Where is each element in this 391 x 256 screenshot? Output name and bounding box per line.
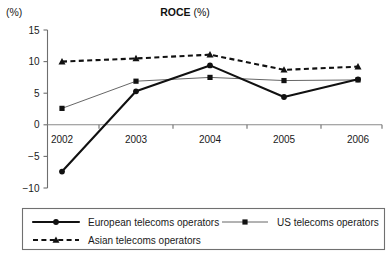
y-axis-unit-label: (%) [6,6,22,18]
marker-circle [133,88,139,94]
marker-circle [59,169,65,175]
chart-legend: European telecoms operatorsUS telecoms o… [23,209,385,250]
x-tick-label: 2003 [125,134,148,145]
y-tick-label: −5 [28,151,40,162]
x-tick-label: 2006 [347,134,370,145]
y-tick-label: 10 [28,56,40,67]
series-triangle [58,51,361,73]
y-tick-label: 0 [34,119,40,130]
marker-circle [53,219,59,225]
series-line [62,77,358,108]
marker-circle [355,76,361,82]
y-tick-label: 15 [28,25,40,36]
legend-box [23,209,385,250]
chart-title: ROCE (%) [160,6,210,18]
roce-line-chart: (%) ROCE (%) −10−5051015 200220032004200… [0,0,391,256]
y-tick-label: 5 [34,88,40,99]
marker-square [242,219,247,224]
series-plot-area [58,51,361,174]
chart-canvas: (%) ROCE (%) −10−5051015 200220032004200… [0,0,391,256]
y-axis: −10−5051015 [23,25,48,194]
marker-square [281,78,286,83]
legend-item-label: US telecoms operators [277,217,379,228]
marker-square [59,106,64,111]
x-tick-label: 2004 [199,134,222,145]
x-axis: 20022003200420052006 [48,125,383,145]
series-square [59,75,360,111]
legend-item-label: European telecoms operators [88,217,219,228]
marker-circle [281,94,287,100]
marker-square [207,75,212,80]
marker-circle [207,62,213,68]
marker-square [133,79,138,84]
chart-title-unit: (%) [191,6,210,18]
x-tick-label: 2002 [51,134,74,145]
series-line [62,65,358,171]
chart-title-main: ROCE [160,6,190,18]
legend-item-label: Asian telecoms operators [88,235,201,246]
x-tick-label: 2005 [273,134,296,145]
y-tick-label: −10 [23,183,40,194]
